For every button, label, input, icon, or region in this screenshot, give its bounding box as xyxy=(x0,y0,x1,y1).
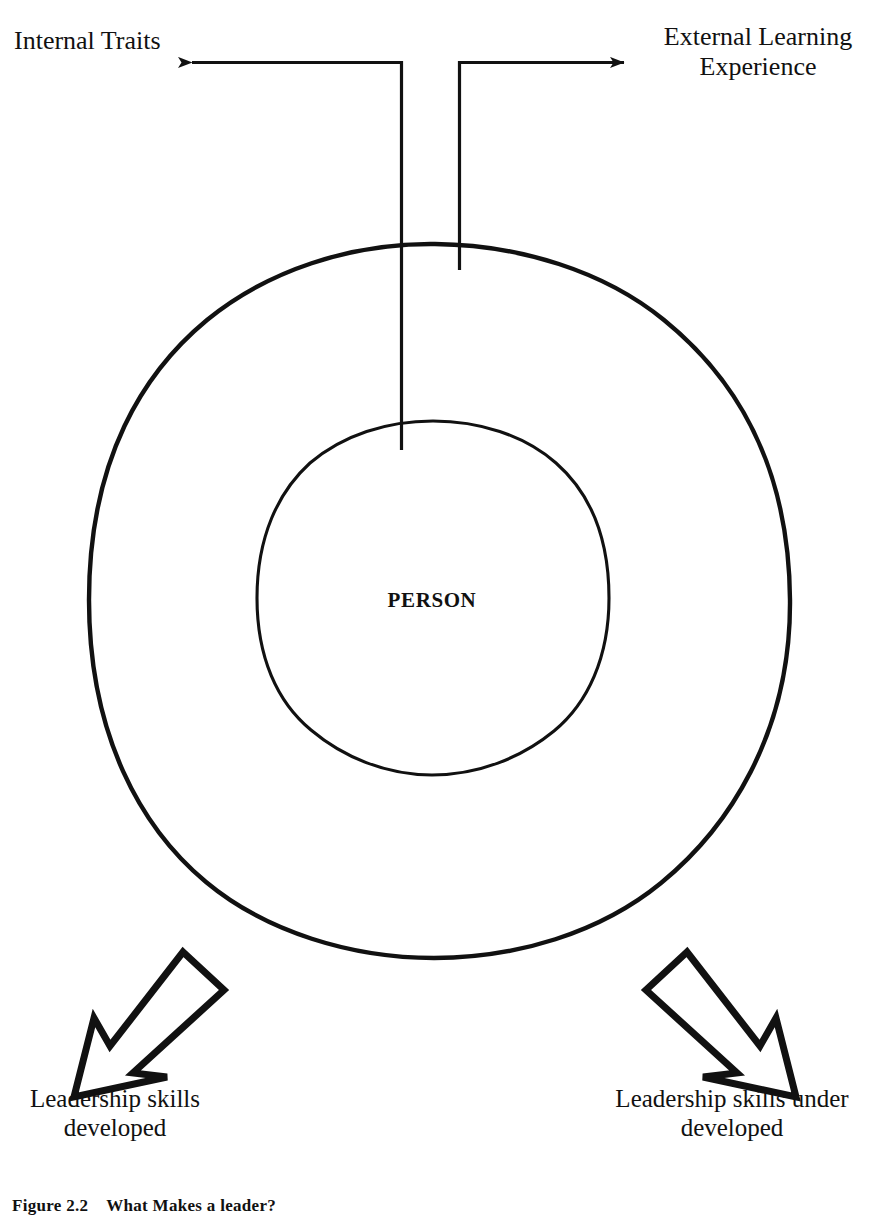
label-leadership-skills-developed: Leadership skills developed xyxy=(0,1084,230,1142)
figure-caption: Figure 2.2 What Makes a leader? xyxy=(12,1196,276,1215)
under-developed-outcome-arrow xyxy=(646,952,796,1097)
external-learning-connector xyxy=(460,63,625,271)
developed-outcome-arrow xyxy=(74,952,224,1097)
label-leadership-skills-under-developed: Leadership skills under developed xyxy=(592,1084,872,1142)
label-internal-traits: Internal Traits xyxy=(14,26,161,56)
label-external-learning-experience: External Learning Experience xyxy=(648,22,868,82)
figure-root: Internal Traits External Learning Experi… xyxy=(0,0,881,1215)
label-person: PERSON xyxy=(332,588,532,612)
internal-traits-connector xyxy=(192,63,402,451)
